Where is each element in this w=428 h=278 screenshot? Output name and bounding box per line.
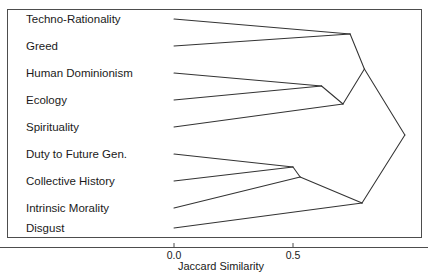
dendrogram-figure: Techno-RationalityGreedHuman Dominionism…: [0, 0, 428, 278]
leaf-label-spirituality: Spirituality: [26, 121, 79, 133]
leaf-label-ecology: Ecology: [26, 94, 67, 106]
leaf-label-duty-to-future-gen: Duty to Future Gen.: [26, 148, 127, 160]
leaf-label-disgust: Disgust: [26, 222, 65, 234]
leaf-label-intrinsic-morality: Intrinsic Morality: [26, 202, 109, 214]
leaf-label-techno-rationality: Techno-Rationality: [26, 13, 121, 25]
leaf-label-greed: Greed: [26, 40, 58, 52]
x-tick-label-0.5: 0.5: [286, 249, 301, 261]
leaf-label-collective-history: Collective History: [26, 175, 115, 187]
leaf-label-human-dominionism: Human Dominionism: [26, 67, 133, 79]
figure-background: [0, 0, 428, 278]
x-axis-title: Jaccard Similarity: [178, 260, 265, 272]
